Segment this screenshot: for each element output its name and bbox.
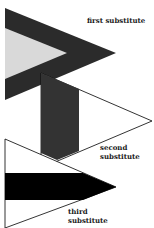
first-substitute-text: first substitute xyxy=(87,16,145,25)
second-substitute-bar xyxy=(41,73,79,160)
second-substitute-line1: second xyxy=(100,143,140,152)
first-substitute-label: first substitute xyxy=(87,16,145,25)
second-substitute-line2: substitute xyxy=(100,152,140,161)
third-substitute-line1: third xyxy=(68,207,108,216)
third-substitute-arrow xyxy=(5,173,116,200)
third-substitute-label: third substitute xyxy=(68,207,108,225)
substitute-arrows-diagram xyxy=(0,0,154,228)
third-substitute-line2: substitute xyxy=(68,216,108,225)
second-substitute-label: second substitute xyxy=(100,143,140,161)
